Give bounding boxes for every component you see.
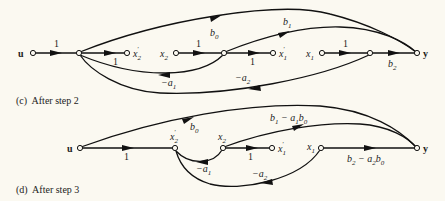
node-x2-prime — [172, 145, 177, 150]
node-x1-prime — [269, 145, 274, 150]
gain-x2-n2: 1 — [196, 38, 201, 49]
node-y — [414, 145, 419, 150]
edge-u-y-b0 — [81, 105, 416, 147]
label-x1: x1 — [306, 141, 315, 155]
label-x1-prime: x1′ — [278, 45, 287, 62]
arrow-icon — [364, 145, 376, 151]
node-x2 — [220, 145, 225, 150]
label-x2-prime: x2′ — [169, 128, 178, 145]
node-u — [77, 145, 82, 150]
node-1 — [76, 50, 81, 55]
gain-n2-x1p: 1 — [250, 56, 255, 67]
edge-x1-n3 — [325, 50, 367, 56]
label-y: y — [423, 48, 428, 59]
edge-x2-y-b1a1b0 — [224, 124, 416, 147]
edge-n3-y — [373, 50, 414, 56]
panel-c: u x2′ x2 x1′ x1 y 1 1 1 1 1 b0 b1 b2 −a1… — [16, 9, 428, 107]
arrow-icon — [278, 31, 290, 38]
edge-n3-n1-a2 — [80, 55, 369, 93]
gain-x2-x1p: 1 — [248, 151, 253, 162]
gain-b0: b0 — [210, 27, 219, 41]
arrow-icon — [339, 50, 351, 56]
gain-b1: b1 — [283, 16, 292, 30]
caption-d: (d) After step 3 — [16, 184, 79, 196]
caption-c: (c) After step 2 — [16, 95, 79, 107]
gain-b1-minus-a1b0: b1 − a1b0 — [270, 112, 308, 126]
label-x1-prime: x1′ — [277, 140, 286, 157]
signal-flow-graph-figure: u x2′ x2 x1′ x1 y 1 1 1 1 1 b0 b1 b2 −a1… — [0, 0, 445, 201]
node-x1 — [318, 145, 323, 150]
label-x1: x1 — [305, 48, 314, 62]
gain-n1-x2p: 1 — [113, 56, 118, 67]
node-x1 — [319, 50, 324, 55]
gain-u-n1: 1 — [54, 38, 59, 49]
gain-b2: b2 — [388, 58, 397, 72]
node-3 — [367, 50, 372, 55]
arrow-icon — [388, 50, 400, 56]
node-x2-prime — [124, 50, 129, 55]
label-x2: x2 — [159, 48, 168, 62]
node-x2 — [173, 50, 178, 55]
gain-a1: −a1 — [161, 77, 176, 91]
edge-n2-x1p — [227, 50, 270, 56]
node-y — [414, 50, 419, 55]
gain-b0: b0 — [190, 121, 199, 135]
node-2 — [221, 50, 226, 55]
gain-a1: −a1 — [196, 163, 211, 177]
arrow-icon — [193, 50, 205, 56]
label-x2: x2 — [217, 131, 226, 145]
edge-n2-y-b1 — [225, 27, 416, 52]
edge-n1-y-b0 — [80, 9, 416, 52]
node-x1-prime — [270, 50, 275, 55]
panel-d: u x2′ x2 x1′ x1 y 1 1 b0 b1 − a1b0 b2 − … — [16, 105, 428, 196]
node-u — [30, 50, 35, 55]
gain-a2: −a2 — [252, 168, 268, 182]
label-x2-prime: x2′ — [132, 45, 141, 62]
edge-x2-n2 — [179, 50, 221, 56]
label-u: u — [18, 48, 24, 59]
edge-x1-y — [324, 145, 414, 151]
edge-u-n1 — [36, 50, 76, 56]
gain-a2: −a2 — [235, 72, 251, 86]
label-u: u — [67, 143, 73, 154]
arrow-icon — [50, 50, 62, 56]
gain-b2-minus-a2b0: b2 − a2b0 — [347, 153, 385, 167]
gain-x1-n3: 1 — [343, 38, 348, 49]
label-y: y — [423, 143, 428, 154]
gain-u-x2p: 1 — [124, 151, 129, 162]
